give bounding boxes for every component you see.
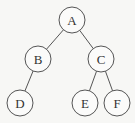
tree-diagram: ABCDEF: [0, 0, 135, 123]
node-label: C: [97, 52, 106, 67]
edge-a-c: [80, 30, 93, 48]
edge-a-b: [47, 30, 64, 49]
node-a: A: [59, 7, 85, 33]
node-label: D: [15, 96, 24, 111]
node-label: A: [67, 13, 77, 28]
node-label: F: [113, 96, 120, 111]
node-c: C: [88, 46, 114, 72]
node-label: E: [81, 96, 89, 111]
node-b: B: [25, 46, 51, 72]
node-f: F: [104, 90, 130, 116]
node-e: E: [72, 90, 98, 116]
edge-c-f: [105, 71, 112, 91]
edge-c-e: [89, 71, 96, 91]
edge-b-d: [25, 71, 33, 91]
node-label: B: [34, 52, 43, 67]
nodes: ABCDEF: [7, 7, 130, 116]
node-d: D: [7, 90, 33, 116]
